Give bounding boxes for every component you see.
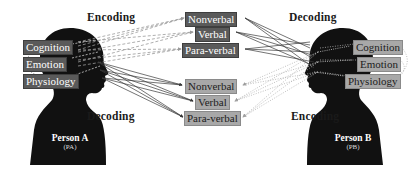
person-b-abbr: (PB) <box>323 143 383 151</box>
person-b-cognition: Cognition <box>353 40 403 55</box>
channel-top-nonverbal: Nonverbal <box>185 12 237 27</box>
communication-diagram: Encoding Decoding Decoding Encoding Cogn… <box>0 0 413 185</box>
decoding-solid-lines-a <box>98 62 193 117</box>
channel-top-verbal: Verbal <box>195 27 230 42</box>
person-a-label: Person A (PA) <box>40 133 100 151</box>
channel-top-paraverbal: Para-verbal <box>182 43 239 58</box>
heading-decoding-a: Decoding <box>87 110 135 122</box>
person-b-label: Person B (PB) <box>323 133 383 151</box>
person-a-cognition: Cognition <box>23 40 73 55</box>
channel-bottom-verbal: Verbal <box>195 95 230 110</box>
person-a-physiology: Physiology <box>23 74 79 89</box>
person-a-abbr: (PA) <box>40 143 100 151</box>
person-a-emotion: Emotion <box>23 57 67 72</box>
heading-decoding-b: Decoding <box>289 11 337 23</box>
person-b-name: Person B <box>323 133 383 143</box>
heading-encoding-a: Encoding <box>87 11 135 23</box>
heading-encoding-b: Encoding <box>291 110 339 122</box>
person-b-emotion: Emotion <box>357 57 401 72</box>
channel-bottom-nonverbal: Nonverbal <box>185 79 237 94</box>
channel-bottom-paraverbal: Para-verbal <box>184 111 241 126</box>
decoding-solid-lines-b <box>236 18 314 68</box>
person-a-name: Person A <box>40 133 100 143</box>
person-b-physiology: Physiology <box>345 74 401 89</box>
